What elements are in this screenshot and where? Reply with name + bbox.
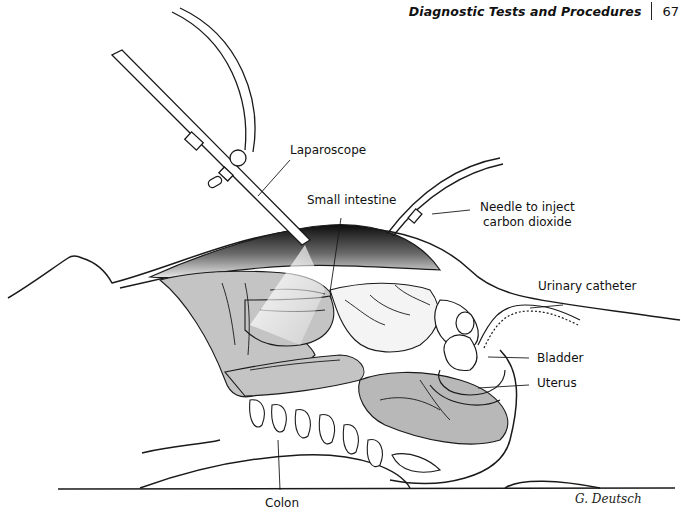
table-line [58,488,675,489]
label-colon: Colon [265,496,299,510]
laparoscope-instrument [112,8,310,245]
ovary [456,312,474,334]
label-urinary-catheter: Urinary catheter [538,279,637,293]
label-needle-line1: Needle to inject [480,200,575,214]
label-uterus: Uterus [537,376,577,390]
label-laparoscope: Laparoscope [290,143,366,157]
artist-signature: G. Deutsch [575,492,642,506]
label-bladder: Bladder [537,351,583,365]
laparoscopy-illustration [0,0,681,517]
label-needle-line2: carbon dioxide [483,215,572,229]
label-small-intestine: Small intestine [307,193,396,207]
catheter-instrument [478,305,580,348]
